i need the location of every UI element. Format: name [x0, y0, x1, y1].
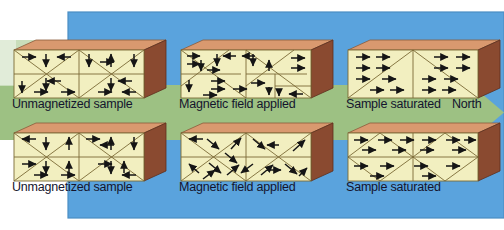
block-row2-unmagnetized [14, 123, 166, 181]
block-row1-field-applied [181, 40, 333, 98]
caption-row1-block1: Unmagnetized sample [12, 98, 133, 111]
figure-stage [0, 0, 504, 230]
block-row1-saturated [348, 40, 500, 98]
caption-row2-block1: Unmagnetized sample [12, 181, 133, 194]
caption-row1-block2: Magnetic field applied [179, 98, 296, 111]
north-arrow-label: North [452, 98, 482, 111]
caption-row2-block3: Sample saturated [346, 181, 441, 194]
caption-row2-block2: Magnetic field applied [179, 181, 296, 194]
block-row1-unmagnetized [14, 40, 166, 98]
block-row2-saturated [348, 123, 500, 181]
block-row2-field-applied [181, 123, 333, 181]
caption-row1-block3: Sample saturated [346, 98, 441, 111]
